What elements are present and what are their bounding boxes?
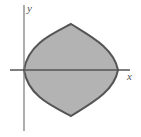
region-diagram: y x — [0, 0, 141, 137]
y-axis-label: y — [26, 2, 32, 14]
x-axis-label: x — [126, 70, 132, 82]
